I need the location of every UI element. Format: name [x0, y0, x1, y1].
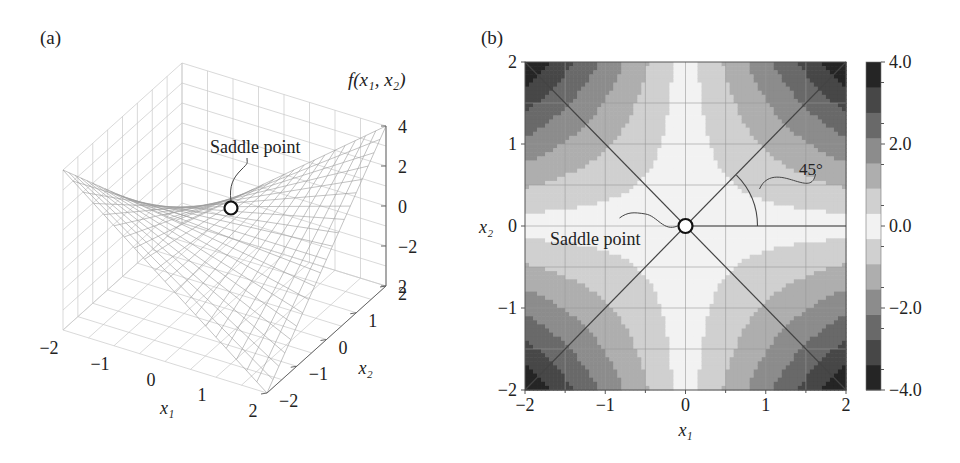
z-tick-label: 2	[398, 157, 407, 177]
z-tick-label: 0	[398, 197, 407, 217]
saddle-point-marker-a	[225, 202, 238, 215]
x-tick-label: −2	[515, 395, 534, 415]
figure: −2−1012x₁−2−1012x₂420−22 −2−1012210−1−2x…	[0, 0, 960, 463]
x2-tick-label: −1	[309, 364, 328, 384]
x2-tick-label: 1	[368, 311, 377, 331]
x1-tick-label: −2	[39, 338, 58, 358]
x1-tick-label: −1	[90, 354, 109, 374]
x1-tick-label: 1	[198, 385, 207, 405]
z-tick-label: 2	[398, 277, 407, 297]
panel-b-contour-plot: −2−1012210−1−2x₁x₂4.02.00.0−2.0−4.0	[478, 52, 922, 440]
colorbar-tick-label: 0.0	[889, 216, 912, 236]
x2-axis-label: x₂	[358, 358, 373, 378]
y-tick-label: −1	[498, 298, 517, 318]
y-tick-label: −2	[498, 380, 517, 400]
y-tick-label: 2	[508, 52, 517, 72]
x-tick-label: 1	[761, 395, 770, 415]
x1-tick-label: 0	[147, 370, 156, 390]
colorbar-tick-label: −4.0	[889, 380, 922, 400]
colorbar-tick-label: 2.0	[889, 134, 912, 154]
panel-b-label: (b)	[481, 27, 503, 49]
y-tick-label: 1	[508, 134, 517, 154]
saddle-point-marker	[679, 219, 693, 233]
x-axis-label: x₁	[677, 420, 692, 440]
x1-axis-label: x₁	[159, 398, 174, 418]
x2-tick-label: −2	[279, 391, 298, 411]
x-tick-label: 0	[681, 395, 690, 415]
x1-tick-label: 2	[249, 401, 258, 421]
saddle-annotation-a: Saddle point	[210, 137, 301, 157]
saddle-annotation-b: Saddle point	[550, 229, 641, 249]
x-tick-label: 2	[842, 395, 851, 415]
x-tick-label: −1	[596, 395, 615, 415]
y-tick-label: 0	[508, 216, 517, 236]
z-tick-label: 4	[398, 117, 407, 137]
colorbar: 4.02.00.0−2.0−4.0	[866, 52, 922, 400]
panel-a-label: (a)	[40, 27, 61, 49]
angle-label: 45°	[799, 160, 823, 179]
z-axis-label: f(x₁, x₂)	[348, 69, 406, 91]
y-axis-label: x₂	[478, 217, 493, 237]
colorbar-tick-label: 4.0	[889, 52, 912, 72]
x2-tick-label: 0	[339, 338, 348, 358]
colorbar-tick-label: −2.0	[889, 298, 922, 318]
z-tick-label: −2	[398, 237, 417, 257]
panel-a-surface-plot: −2−1012x₁−2−1012x₂420−22	[39, 63, 417, 421]
